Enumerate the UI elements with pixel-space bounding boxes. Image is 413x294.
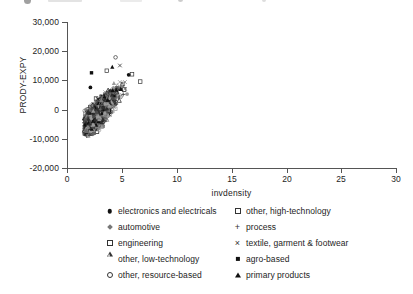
y-tick-20000: [62, 51, 67, 52]
legend-label: automotive: [118, 219, 160, 235]
y-axis-label: PRODY-EXPY: [18, 40, 28, 130]
legend-item[interactable]: other, high-technology: [232, 203, 407, 219]
x-tick-label-10: 10: [162, 175, 192, 184]
y-tick-10000: [62, 80, 67, 81]
y-tick-label-neg10000: -10,000: [29, 135, 59, 144]
top-edge-artifact: [0, 0, 413, 6]
y-tick-label-neg20000: -20,000: [29, 164, 59, 173]
y-tick-30000: [62, 22, 67, 23]
legend-column-right: other, high-technology + process × texti…: [232, 203, 407, 283]
legend-item[interactable]: other, low-technology: [104, 251, 234, 267]
plot-area: 30,000 20,000 10,000 0 -10,000 -20,000 P…: [0, 8, 413, 198]
y-tick-neg10000: [62, 139, 67, 140]
y-tick-label-20000: 20,000: [32, 47, 59, 56]
legend-item[interactable]: agro-based: [232, 251, 407, 267]
filled-square-icon: [232, 251, 243, 267]
x-tick-label-25: 25: [326, 175, 356, 184]
x-tick-10: [177, 168, 178, 173]
x-tick-5: [122, 168, 123, 173]
filled-triangle-icon: [232, 267, 243, 283]
y-tick-0: [62, 110, 67, 111]
legend-item[interactable]: primary products: [232, 267, 407, 283]
filled-circle-icon: [104, 203, 115, 219]
x-tick-label-30: 30: [381, 175, 411, 184]
open-triangle-icon: [104, 251, 115, 267]
scatter-plot-figure: 30,000 20,000 10,000 0 -10,000 -20,000 P…: [0, 0, 413, 294]
legend-label: electronics and electricals: [118, 203, 217, 219]
x-tick-label-15: 15: [217, 175, 247, 184]
legend-label: agro-based: [246, 251, 290, 267]
diamond-icon: [104, 219, 115, 235]
legend-label: other, high-technology: [246, 203, 331, 219]
x-tick-label-0: 0: [52, 175, 82, 184]
legend-label: engineering: [118, 235, 163, 251]
open-circle-icon: [104, 267, 115, 283]
legend-item[interactable]: + process: [232, 219, 407, 235]
legend-label: other, low-technology: [118, 251, 199, 267]
legend-label: process: [246, 219, 276, 235]
legend-item[interactable]: × textile, garment & footwear: [232, 235, 407, 251]
x-tick-0: [67, 168, 68, 173]
x-tick-25: [341, 168, 342, 173]
plus-icon: +: [232, 219, 243, 235]
legend-item[interactable]: automotive: [104, 219, 234, 235]
legend-label: textile, garment & footwear: [246, 235, 348, 251]
legend-item[interactable]: electronics and electricals: [104, 203, 234, 219]
x-tick-15: [232, 168, 233, 173]
x-tick-30: [396, 168, 397, 173]
open-square-icon: [104, 235, 115, 251]
legend: electronics and electricals automotive e…: [0, 203, 413, 285]
x-tick-label-5: 5: [107, 175, 137, 184]
legend-label: other, resource-based: [118, 267, 202, 283]
y-tick-label-0: 0: [54, 106, 59, 115]
y-tick-label-30000: 30,000: [32, 18, 59, 27]
cross-icon: ×: [232, 235, 243, 251]
x-tick-20: [287, 168, 288, 173]
legend-column-left: electronics and electricals automotive e…: [104, 203, 234, 283]
legend-item[interactable]: engineering: [104, 235, 234, 251]
x-axis-label: invdensity: [67, 188, 396, 198]
legend-item[interactable]: other, resource-based: [104, 267, 234, 283]
legend-label: primary products: [246, 267, 310, 283]
open-square-icon: [232, 203, 243, 219]
x-tick-label-20: 20: [272, 175, 302, 184]
y-tick-label-10000: 10,000: [32, 76, 59, 85]
scatter-points-layer: [68, 22, 396, 168]
